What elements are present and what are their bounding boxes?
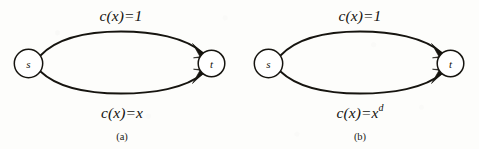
panel-b-bottom-edge-label: c(x)=xd	[336, 102, 383, 121]
panel-a-top-edge	[41, 32, 204, 56]
panel-b-top-edge-label: c(x)=1	[339, 7, 382, 25]
panel-a-bottom-edge	[41, 72, 204, 94]
figure-root: s t s t c(x)=1 c(x)=x (a) c(x)=1	[0, 0, 479, 149]
panel-a-top-edge-label: c(x)=1	[100, 7, 143, 25]
panel-b-bottom-edge-label-base: c(x)=x	[336, 104, 378, 121]
graph-diagram-svg: s t s t	[0, 0, 479, 149]
panel-a-node-s-label: s	[26, 58, 30, 70]
panel-a-bottom-edge-label: c(x)=x	[101, 102, 143, 121]
panel-b-caption: (b)	[354, 131, 366, 142]
panel-b-bottom-edge-label-exponent: d	[378, 102, 383, 113]
panel-a-bottom-edge-label-base: c(x)=x	[101, 104, 143, 121]
panel-b-group: s t	[254, 32, 464, 94]
panel-a-group: s t	[14, 32, 225, 94]
panel-b-bottom-edge	[281, 72, 443, 94]
panel-b-top-edge	[281, 32, 443, 56]
panel-a-caption: (a)	[116, 131, 128, 142]
panel-b-node-s-label: s	[266, 58, 270, 70]
